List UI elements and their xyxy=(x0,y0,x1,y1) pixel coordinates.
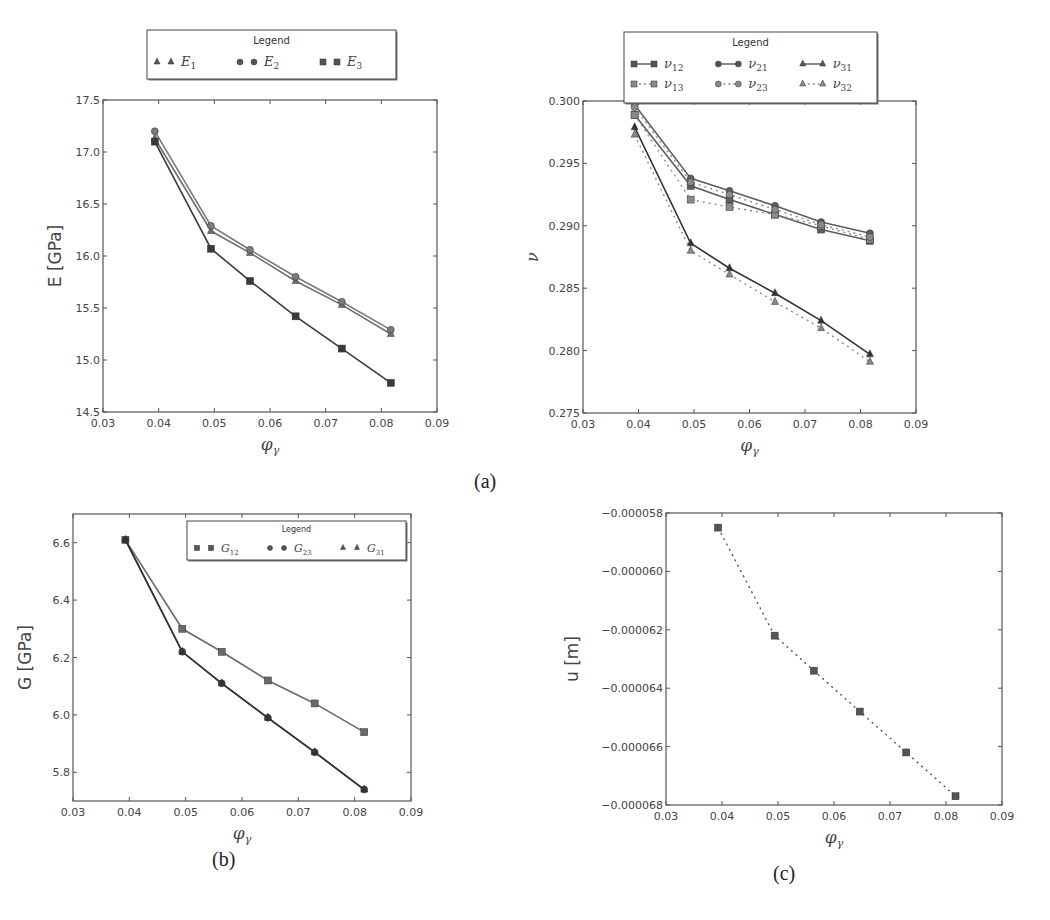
square-marker-icon xyxy=(207,245,214,252)
x-tick-label: 0.09 xyxy=(399,806,424,819)
circle-marker-icon xyxy=(818,221,825,228)
legend-square-icon xyxy=(209,546,214,551)
square-marker-icon xyxy=(292,313,299,320)
square-marker-icon xyxy=(264,677,271,684)
legend-circle-icon xyxy=(237,59,243,65)
circle-marker-icon xyxy=(866,234,873,241)
x-tick-label: 0.09 xyxy=(990,810,1015,823)
legend-square-icon xyxy=(320,59,326,65)
square-marker-icon xyxy=(387,379,394,386)
legend-title: Legend xyxy=(253,35,290,46)
square-marker-icon xyxy=(771,632,778,639)
y-tick-label: 6.0 xyxy=(53,709,71,722)
y-tick-label: 5.8 xyxy=(53,766,71,779)
chart-poisson-ratio: 0.030.040.050.060.070.080.090.2750.2800.… xyxy=(523,32,928,458)
legend-square-icon xyxy=(334,59,340,65)
x-tick-label: 0.07 xyxy=(286,806,311,819)
y-tick-label: 0.290 xyxy=(549,220,581,233)
circle-marker-icon xyxy=(726,191,733,198)
y-tick-label: −0.000066 xyxy=(601,741,663,754)
chart-elastic-modulus: 0.030.040.050.060.070.080.0914.515.015.5… xyxy=(45,30,449,457)
caption-b: (b) xyxy=(212,848,235,871)
y-tick-label: 16.0 xyxy=(76,250,101,263)
circle-marker-icon xyxy=(687,179,694,186)
x-tick-label: 0.05 xyxy=(682,418,707,431)
x-tick-label: 0.09 xyxy=(425,417,450,430)
y-tick-label: 15.0 xyxy=(76,354,101,367)
circle-marker-icon xyxy=(338,298,345,305)
circle-marker-icon xyxy=(292,273,299,280)
y-axis-label: ν xyxy=(523,252,542,262)
legend: LegendE1E2E3 xyxy=(147,30,398,81)
square-marker-icon xyxy=(903,749,910,756)
chart-displacement: 0.030.040.050.060.070.080.09−0.000068−0.… xyxy=(562,507,1014,850)
legend-circle-icon xyxy=(251,59,257,65)
y-tick-label: −0.000068 xyxy=(601,799,663,812)
x-tick-label: 0.05 xyxy=(766,810,791,823)
x-tick-label: 0.07 xyxy=(878,810,903,823)
legend: Legendν12ν21ν31ν13ν23ν32 xyxy=(624,32,879,105)
plot-area xyxy=(583,101,916,413)
y-tick-label: −0.000060 xyxy=(601,565,663,578)
y-tick-label: 14.5 xyxy=(76,406,101,419)
chart-shear-modulus: 0.030.040.050.060.070.080.095.86.06.26.4… xyxy=(15,514,423,846)
x-tick-label: 0.08 xyxy=(934,810,959,823)
square-marker-icon xyxy=(631,111,638,118)
y-axis-label: G [GPa] xyxy=(15,625,35,690)
legend-circle-icon xyxy=(268,546,273,551)
circle-marker-icon xyxy=(631,104,638,111)
square-marker-icon xyxy=(311,700,318,707)
x-tick-label: 0.04 xyxy=(626,418,651,431)
x-tick-label: 0.06 xyxy=(737,418,762,431)
legend-square-icon xyxy=(631,81,637,87)
y-tick-label: 0.285 xyxy=(549,282,581,295)
x-axis-label: φγ xyxy=(233,823,252,846)
x-tick-label: 0.04 xyxy=(146,417,171,430)
square-marker-icon xyxy=(218,648,225,655)
legend-square-icon xyxy=(651,81,657,87)
legend: LegendG12G23G31 xyxy=(187,521,408,562)
y-tick-label: 17.0 xyxy=(76,146,101,159)
y-tick-label: 0.300 xyxy=(549,95,581,108)
y-axis-label: E [GPa] xyxy=(45,225,65,288)
x-tick-label: 0.04 xyxy=(117,806,142,819)
x-tick-label: 0.09 xyxy=(904,418,929,431)
x-tick-label: 0.08 xyxy=(848,418,873,431)
circle-marker-icon xyxy=(207,222,214,229)
square-marker-icon xyxy=(151,138,158,145)
x-tick-label: 0.06 xyxy=(230,806,255,819)
x-axis-label: φγ xyxy=(261,434,280,457)
legend-square-icon xyxy=(651,61,657,67)
y-tick-label: 15.5 xyxy=(76,302,101,315)
x-tick-label: 0.05 xyxy=(173,806,198,819)
caption-c: (c) xyxy=(773,862,795,885)
legend-square-icon xyxy=(631,61,637,67)
square-marker-icon xyxy=(715,524,722,531)
x-axis-label: φγ xyxy=(825,827,844,850)
x-tick-label: 0.03 xyxy=(61,806,86,819)
y-axis-label: u [m] xyxy=(562,636,582,682)
x-tick-label: 0.07 xyxy=(313,417,338,430)
square-marker-icon xyxy=(687,196,694,203)
square-marker-icon xyxy=(856,708,863,715)
circle-marker-icon xyxy=(387,326,394,333)
y-tick-label: 6.2 xyxy=(53,652,71,665)
circle-marker-icon xyxy=(772,206,779,213)
square-marker-icon xyxy=(179,625,186,632)
x-tick-label: 0.08 xyxy=(369,417,394,430)
y-tick-label: 17.5 xyxy=(76,94,101,107)
y-tick-label: 0.295 xyxy=(549,157,581,170)
square-marker-icon xyxy=(361,729,368,736)
legend-square-icon xyxy=(195,546,200,551)
y-tick-label: 6.6 xyxy=(53,537,71,550)
x-tick-label: 0.08 xyxy=(342,806,367,819)
square-marker-icon xyxy=(246,277,253,284)
circle-marker-icon xyxy=(151,128,158,135)
legend-circle-icon xyxy=(735,81,741,87)
circle-marker-icon xyxy=(246,246,253,253)
x-tick-label: 0.06 xyxy=(822,810,847,823)
legend-circle-icon xyxy=(715,81,721,87)
legend-title: Legend xyxy=(732,37,769,48)
square-marker-icon xyxy=(952,793,959,800)
y-tick-label: 6.4 xyxy=(53,594,71,607)
